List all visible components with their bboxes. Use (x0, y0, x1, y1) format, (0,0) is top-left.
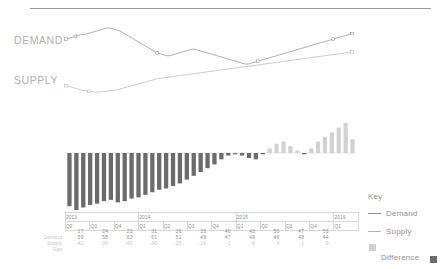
difference-bar (205, 153, 209, 168)
chart-legend: Key Demand Supply Difference (368, 192, 447, 264)
data-point-marker (332, 38, 335, 41)
difference-bar-chart (0, 110, 370, 212)
table-cell: -30 (139, 241, 164, 247)
difference-bar (337, 128, 341, 153)
difference-bar (226, 153, 230, 156)
difference-bar (185, 153, 189, 180)
top-divider-rule (30, 8, 431, 9)
difference-bar (74, 153, 78, 210)
table-year-cell: 2014 (139, 213, 237, 222)
line-chart: DEMAND SUPPLY (0, 14, 370, 106)
quarterly-data-table: Demand Supply Gap 2013201420152016 Q2Q3Q… (9, 212, 359, 262)
difference-bar (164, 153, 168, 188)
demand-line-swatch-icon (368, 213, 381, 214)
difference-bar (178, 153, 182, 183)
legend-title: Key (368, 192, 447, 201)
chart-page: DEMAND SUPPLY Demand Supply Gap 20132014… (0, 0, 447, 269)
difference-negative-swatch-icon (430, 256, 437, 263)
legend-item-supply[interactable]: Supply (368, 226, 447, 236)
table-cell: 4 (261, 241, 286, 247)
difference-bar (350, 139, 354, 153)
difference-bar (171, 153, 175, 186)
difference-bar (323, 137, 327, 153)
difference-bar (95, 153, 99, 204)
difference-bar (129, 153, 133, 199)
table-cell: -6 (237, 241, 262, 247)
table-cell (335, 241, 360, 247)
bar-chart-svg (0, 110, 370, 212)
difference-bar (123, 153, 127, 201)
difference-bar (344, 123, 348, 153)
table-cell: -34 (90, 241, 115, 247)
legend-label-difference: Difference (381, 253, 419, 262)
difference-bar (67, 153, 71, 206)
difference-bar (261, 153, 265, 154)
row-label-gap: Gap (9, 247, 65, 253)
difference-bar (81, 153, 85, 207)
difference-bar (330, 132, 334, 153)
difference-bar (247, 153, 251, 158)
table-cell: -1 (212, 241, 237, 247)
difference-bar (309, 148, 313, 153)
table-cell: -42 (65, 241, 90, 247)
difference-bar (88, 153, 92, 205)
data-point-marker (351, 32, 354, 35)
table-cell: -40 (114, 241, 139, 247)
data-point-marker (351, 51, 354, 54)
data-point-marker (256, 60, 259, 63)
data-point-marker (74, 35, 77, 38)
difference-bar (212, 153, 216, 164)
line-chart-svg (0, 14, 370, 106)
difference-bar (192, 153, 196, 176)
difference-bar (302, 153, 306, 154)
difference-positive-swatch-icon (369, 244, 376, 251)
table-year-cell: 2016 (334, 213, 359, 222)
demand-series-label: DEMAND (14, 34, 63, 46)
table-values: 1724233126334643504753 59586361514947494… (65, 229, 359, 248)
difference-bar (109, 153, 113, 200)
legend-label-supply: Supply (386, 227, 412, 236)
difference-bar (143, 153, 147, 195)
supply-line-swatch-icon (368, 231, 381, 232)
table-cell: 9 (310, 241, 335, 247)
table-cell: -25 (163, 241, 188, 247)
bar-group (67, 123, 354, 210)
difference-bar (316, 141, 320, 153)
difference-bar (219, 153, 223, 159)
difference-bar (233, 153, 237, 154)
table-year-cell: 2013 (66, 213, 139, 222)
table-year-row: 2013201420152016 (66, 213, 359, 222)
table-cell: -1 (286, 241, 311, 247)
demand-line (66, 28, 352, 64)
legend-item-demand[interactable]: Demand (368, 208, 447, 218)
difference-bar (116, 153, 120, 202)
legend-item-difference[interactable]: Difference (368, 244, 447, 264)
difference-bar (157, 153, 161, 190)
difference-bar (136, 153, 140, 197)
legend-label-demand: Demand (386, 209, 417, 218)
difference-bar (281, 141, 285, 153)
data-point-marker (65, 38, 68, 41)
supply-series-label: SUPPLY (14, 74, 58, 86)
difference-bar (295, 151, 299, 153)
data-point-marker (88, 90, 91, 93)
difference-bar (199, 153, 203, 172)
difference-bar (102, 153, 106, 201)
difference-bar (254, 153, 258, 159)
difference-bar (268, 148, 272, 153)
data-point-marker (156, 52, 159, 55)
table-year-cell: 2015 (236, 213, 334, 222)
data-point-marker (65, 84, 68, 87)
difference-bar (150, 153, 154, 192)
supply-line (66, 52, 352, 92)
difference-bar (274, 144, 278, 153)
table-cell: -16 (188, 241, 213, 247)
table-row-labels: Demand Supply Gap (9, 235, 65, 254)
table-row: -42-34-40-30-25-16-1-64-19 (65, 241, 359, 247)
difference-bar (240, 153, 244, 156)
difference-bar (288, 146, 292, 153)
